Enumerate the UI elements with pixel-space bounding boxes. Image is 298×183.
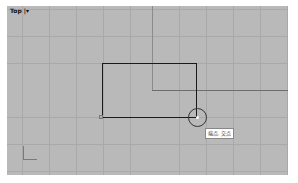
osnap-tooltip: 端点, 交点 [205, 128, 234, 139]
grid-line [7, 144, 288, 145]
top-viewport[interactable]: Top |▾ 端点, 交点 [7, 6, 288, 175]
world-axis-icon [23, 146, 37, 160]
rectangle-curve[interactable] [102, 63, 197, 118]
grid-line [76, 6, 77, 175]
viewport-title[interactable]: Top |▾ [10, 7, 29, 15]
viewport-title-label: Top [10, 7, 22, 14]
grid-line [7, 36, 288, 37]
grid-line [49, 6, 50, 175]
osnap-tooltip-text: 端点, 交点 [208, 130, 231, 136]
snap-point-marker [196, 116, 199, 119]
viewport-menu-caret-icon: |▾ [22, 7, 29, 14]
grid-line [7, 171, 288, 172]
grid-line [7, 9, 288, 10]
start-point-marker [99, 115, 103, 119]
